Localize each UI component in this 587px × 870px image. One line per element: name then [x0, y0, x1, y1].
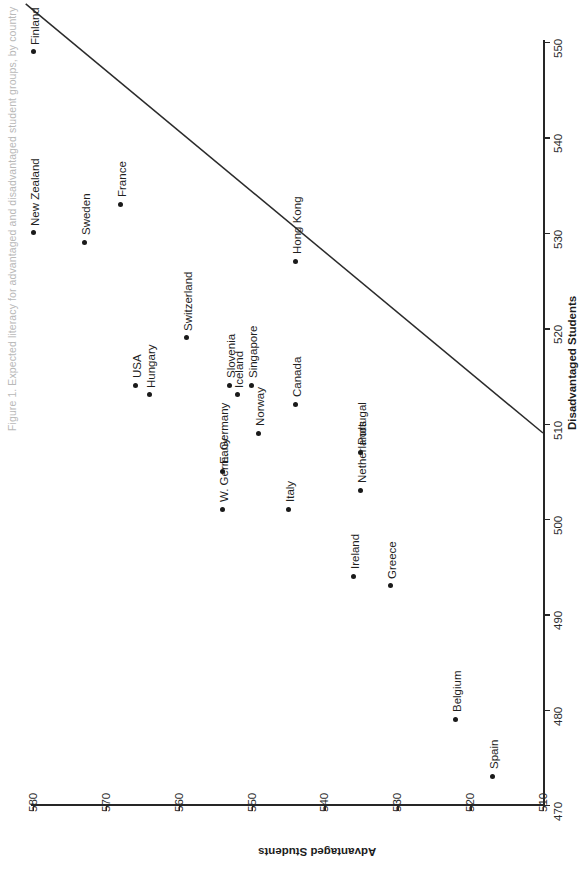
y-tick-label: 560	[173, 793, 185, 812]
data-point[interactable]	[293, 259, 298, 264]
y-tick-label: 570	[100, 793, 112, 812]
data-point-label: Norway	[254, 387, 266, 426]
data-point-label: Hong Kong	[291, 197, 303, 255]
data-point[interactable]	[147, 392, 152, 397]
data-point-label: Canada	[291, 357, 303, 397]
data-point-label: France	[116, 161, 128, 197]
figure-canvas: Figure 1. Expected literacy for advantag…	[0, 0, 587, 870]
data-point-label: Belgium	[451, 671, 463, 713]
data-point-label: USA	[131, 355, 143, 379]
data-point[interactable]	[31, 49, 36, 54]
data-point[interactable]	[286, 507, 291, 512]
data-point-label: Sweden	[80, 194, 92, 236]
data-point-label: New Zealand	[29, 158, 41, 226]
data-point-label: Switzerland	[182, 271, 194, 330]
x-tick-label: 470	[552, 802, 564, 821]
data-point[interactable]	[358, 488, 363, 493]
data-point[interactable]	[490, 774, 495, 779]
x-tick-mark	[544, 137, 550, 138]
data-point-label: Singapore	[247, 326, 259, 378]
data-point[interactable]	[118, 202, 123, 207]
data-point[interactable]	[31, 230, 36, 235]
data-point-label: Hungary	[145, 344, 157, 387]
y-tick-label: 580	[27, 793, 39, 812]
x-tick-mark	[544, 710, 550, 711]
data-point[interactable]	[293, 402, 298, 407]
data-point[interactable]	[220, 507, 225, 512]
x-tick-mark	[544, 328, 550, 329]
x-tick-mark	[544, 42, 550, 43]
x-tick-label: 500	[552, 516, 564, 535]
y-tick-label: 510	[537, 793, 549, 812]
data-point-label: Finland	[29, 7, 41, 45]
y-tick-label: 550	[246, 793, 258, 812]
x-tick-label: 520	[552, 325, 564, 344]
x-tick-mark	[544, 233, 550, 234]
data-point-label: Spain	[488, 740, 500, 769]
x-tick-label: 510	[552, 420, 564, 439]
data-point[interactable]	[82, 240, 87, 245]
y-axis-title: Advantaged Students	[258, 846, 376, 858]
data-point[interactable]	[235, 392, 240, 397]
data-point-label: Iceland	[233, 351, 245, 388]
x-tick-label: 480	[552, 706, 564, 725]
data-point-label: Ireland	[349, 534, 361, 569]
x-tick-label: 540	[552, 134, 564, 153]
x-tick-label: 550	[552, 39, 564, 58]
y-tick-label: 540	[318, 793, 330, 812]
data-point[interactable]	[351, 574, 356, 579]
data-point-label: Greece	[386, 541, 398, 579]
y-tick-label: 530	[391, 793, 403, 812]
data-point-label: Netherlands	[356, 421, 368, 483]
x-tick-label: 530	[552, 230, 564, 249]
x-tick-label: 490	[552, 611, 564, 630]
data-point[interactable]	[227, 383, 232, 388]
data-point[interactable]	[133, 383, 138, 388]
data-point[interactable]	[388, 583, 393, 588]
x-tick-mark	[544, 519, 550, 520]
data-point[interactable]	[256, 431, 261, 436]
data-point[interactable]	[184, 335, 189, 340]
x-tick-mark	[544, 424, 550, 425]
data-point-label: Italy	[284, 481, 296, 502]
x-axis-title: Disadvantaged Students	[566, 296, 578, 430]
y-tick-label: 520	[464, 793, 476, 812]
figure-title: Figure 1. Expected literacy for advantag…	[6, 1, 18, 431]
x-tick-mark	[544, 614, 550, 615]
data-point-label: W. Germany	[218, 438, 230, 502]
data-point[interactable]	[453, 717, 458, 722]
